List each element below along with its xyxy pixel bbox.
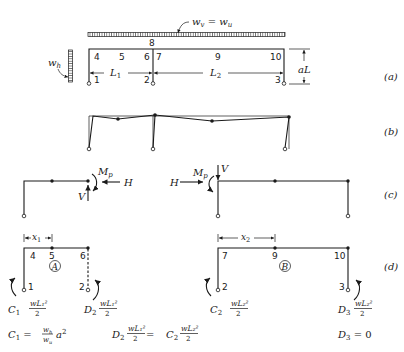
svg-text:wL₂²: wL₂² xyxy=(231,299,248,308)
right-d-c2-term: C2 wL₂² 2 xyxy=(210,299,248,318)
svg-text:wh: wh xyxy=(43,326,52,335)
hinge-9 xyxy=(210,119,214,123)
right-hinge-9 xyxy=(273,179,276,182)
panel-label-c: (c) xyxy=(384,189,398,200)
left-d-label-4: 4 xyxy=(30,251,36,261)
original-frame xyxy=(89,116,289,149)
left-d-label-6: 6 xyxy=(80,251,86,261)
left-pin xyxy=(22,214,26,218)
panel-label-b: (b) xyxy=(384,126,398,137)
horizontal-load-bar xyxy=(69,50,73,82)
left-horizontal-label: H xyxy=(123,177,133,188)
vertical-load-bar xyxy=(88,33,285,37)
right-vertical-label: V xyxy=(221,163,230,174)
left-d-node-5 xyxy=(50,246,53,249)
left-moment-arrow xyxy=(92,174,97,191)
node-label-4: 4 xyxy=(94,52,100,62)
right-d-reaction-c2-arrow xyxy=(206,278,211,296)
panel-c: Mp H V V Mp H (c) xyxy=(22,163,397,218)
svg-text:C1: C1 xyxy=(8,304,20,317)
left-d-pin-2 xyxy=(86,288,90,292)
node-label-2: 2 xyxy=(144,75,150,85)
svg-text:2: 2 xyxy=(133,335,137,343)
hinge-8 xyxy=(153,113,157,117)
svg-text:2: 2 xyxy=(236,310,240,318)
node-label-7: 7 xyxy=(156,52,162,62)
height-label: aL xyxy=(298,64,311,75)
node-label-3: 3 xyxy=(275,75,281,85)
region-b-label: B xyxy=(281,262,289,272)
right-d-label-2: 2 xyxy=(222,282,228,292)
pin-b-1 xyxy=(87,147,91,151)
svg-text:D3: D3 xyxy=(337,304,351,317)
right-d-label-9: 9 xyxy=(272,251,278,261)
span-l1-label: L1 xyxy=(109,67,121,80)
left-d-c1-term: C1 wL₁² 2 xyxy=(8,299,47,318)
load-leader-arrow xyxy=(178,22,189,33)
vertical-load-label: wv = wu xyxy=(192,16,233,29)
x1-label: x1 xyxy=(32,232,41,244)
svg-text:wL₁²: wL₁² xyxy=(30,299,47,308)
svg-text:wu: wu xyxy=(43,336,52,345)
horizontal-load-label: wh xyxy=(48,57,61,70)
right-d-reaction-d3-arrow xyxy=(354,280,360,300)
equation-c1: C1 = wh wu a2 xyxy=(8,326,66,345)
svg-text:C1 =: C1 = xyxy=(8,329,32,342)
pin-support-3 xyxy=(282,82,286,86)
svg-text:2: 2 xyxy=(35,310,39,318)
svg-text:wL₂²: wL₂² xyxy=(181,324,198,333)
panel-a: wv = wu wh 8 4 5 6 7 9 10 1 2 3 L1 L2 xyxy=(48,16,398,85)
svg-text:2: 2 xyxy=(360,310,364,318)
node-label-6: 6 xyxy=(144,52,150,62)
right-freebody-frame xyxy=(218,181,348,215)
hinge-5 xyxy=(116,117,120,121)
right-moment-arrow xyxy=(209,176,214,192)
left-hinge-end xyxy=(86,179,89,182)
region-a-label: A xyxy=(51,262,59,272)
svg-text:2: 2 xyxy=(105,310,109,318)
svg-text:C2: C2 xyxy=(210,304,222,317)
left-d-d2-term: D2 wL₁² 2 xyxy=(83,299,117,318)
right-d-pin-3 xyxy=(346,288,350,292)
right-moment-label: Mp xyxy=(192,167,208,180)
svg-text:a2: a2 xyxy=(56,328,66,340)
left-d-reaction-d2-arrow xyxy=(93,280,99,300)
equation-d2-c2: D2 wL₁² 2 = C2 wL₂² 2 xyxy=(111,324,198,343)
svg-text:D2: D2 xyxy=(83,304,97,317)
left-d-pin-1 xyxy=(22,288,26,292)
svg-text:2: 2 xyxy=(186,335,190,343)
right-pin-2 xyxy=(216,214,220,218)
horizontal-load-leader xyxy=(58,69,68,77)
hinge-10 xyxy=(287,115,291,119)
svg-text:D3 = 0: D3 = 0 xyxy=(337,329,372,342)
portal-frame-diagram: wv = wu wh 8 4 5 6 7 9 10 1 2 3 L1 L2 xyxy=(0,0,404,352)
pin-b-3 xyxy=(283,147,287,151)
left-d-reaction-c1-arrow xyxy=(11,278,16,296)
right-d-label-3: 3 xyxy=(339,282,345,292)
left-moment-label: Mp xyxy=(97,166,113,179)
left-d-node-6 xyxy=(86,246,89,249)
node-label-8: 8 xyxy=(149,38,155,48)
svg-text:D2: D2 xyxy=(111,329,125,342)
right-d-node-9 xyxy=(273,246,276,249)
right-d-pin-2 xyxy=(216,288,220,292)
pin-support-1 xyxy=(87,82,91,86)
panel-d: x1 4 5 6 1 2 A C1 wL₁² 2 D2 wL₁² 2 xyxy=(8,232,398,345)
panel-b: (b) xyxy=(87,113,398,151)
svg-text:C2: C2 xyxy=(166,329,178,342)
right-pin-3 xyxy=(346,214,350,218)
right-d-d3-term: D3 wL₂² 2 xyxy=(337,299,372,318)
pin-support-2 xyxy=(151,82,155,86)
right-d-label-7: 7 xyxy=(222,251,228,261)
right-d-node-10 xyxy=(346,246,349,249)
left-vertical-label: V xyxy=(78,191,87,202)
svg-text:wL₂²: wL₂² xyxy=(355,299,372,308)
svg-text:wL₁²: wL₁² xyxy=(100,299,117,308)
pin-b-2 xyxy=(151,147,155,151)
left-d-label-5: 5 xyxy=(49,251,55,261)
panel-label-d: (d) xyxy=(384,261,398,272)
node-label-9: 9 xyxy=(215,52,221,62)
right-horizontal-label: H xyxy=(169,177,179,188)
panel-label-a: (a) xyxy=(384,71,398,82)
right-d-label-10: 10 xyxy=(334,251,346,261)
